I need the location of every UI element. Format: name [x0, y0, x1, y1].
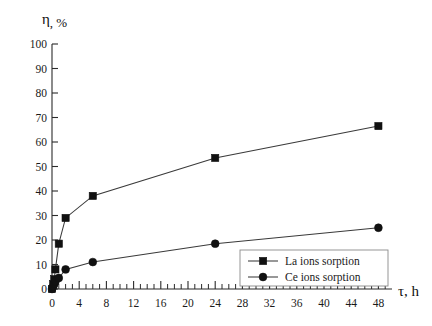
x-tick-label: 28 — [237, 297, 249, 309]
x-tick-label: 0 — [49, 297, 55, 309]
y-tick-label: 30 — [36, 210, 48, 222]
x-tick-label: 40 — [318, 297, 330, 309]
x-axis-title: τ, h — [398, 283, 420, 299]
data-point-square — [52, 266, 59, 273]
data-point-square — [375, 122, 382, 129]
legend-label: Ce ions sorption — [285, 271, 361, 284]
x-tick-label: 8 — [104, 297, 110, 309]
y-tick-label: 80 — [36, 87, 48, 99]
data-point-square — [55, 240, 62, 247]
data-point-square — [62, 214, 69, 221]
y-tick-label: 100 — [30, 38, 48, 50]
y-tick-label: 10 — [36, 259, 48, 271]
legend-label: La ions sorption — [285, 255, 360, 268]
square-marker-icon — [260, 257, 267, 264]
x-tick-label: 4 — [76, 297, 82, 309]
chart-container: η, % τ, h 0102030405060708090100 0481216… — [0, 0, 432, 326]
data-point-square — [89, 192, 96, 199]
x-tick-label: 48 — [373, 297, 385, 309]
y-tick-label: 90 — [36, 63, 48, 75]
y-tick-label: 50 — [36, 161, 48, 173]
data-point-circle — [211, 240, 219, 248]
y-axis-title-symbol: η — [42, 11, 50, 27]
y-tick-label: 60 — [36, 136, 48, 148]
y-axis-title: η, % — [42, 11, 67, 30]
x-tick-label: 12 — [128, 297, 140, 309]
x-tick-label: 44 — [345, 297, 357, 309]
circle-marker-icon — [259, 273, 267, 281]
data-point-circle — [55, 274, 63, 282]
x-tick-label: 20 — [182, 297, 194, 309]
y-axis-title-rest: , % — [50, 15, 68, 30]
y-axis-ticks: 0102030405060708090100 — [30, 38, 58, 295]
x-tick-label: 24 — [209, 297, 221, 309]
y-tick-label: 20 — [36, 234, 48, 246]
x-tick-label: 16 — [155, 297, 167, 309]
x-tick-label: 36 — [291, 297, 303, 309]
data-point-square — [212, 154, 219, 161]
y-tick-label: 70 — [36, 112, 48, 124]
x-tick-label: 32 — [264, 297, 276, 309]
y-tick-label: 0 — [41, 283, 47, 295]
sorption-efficiency-line-chart: η, % τ, h 0102030405060708090100 0481216… — [0, 0, 432, 326]
data-point-circle — [89, 258, 97, 266]
data-point-circle — [375, 224, 383, 232]
chart-legend: La ions sorptionCe ions sorption — [240, 250, 388, 286]
y-tick-label: 40 — [36, 185, 48, 197]
x-axis-title-rest: , h — [404, 283, 420, 299]
data-point-circle — [62, 266, 70, 274]
